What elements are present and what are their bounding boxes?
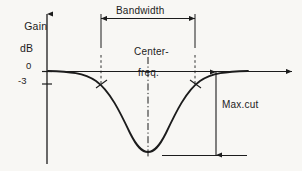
y-tick-label-0: 0 xyxy=(26,61,31,71)
y-axis-title-line2: dB xyxy=(20,43,47,54)
center-frequency-label-line1: Center- xyxy=(134,46,169,57)
y-axis-title-line1: Gain xyxy=(24,20,47,32)
y-tick-label-minus3: -3 xyxy=(18,76,27,86)
bandwidth-label: Bandwidth xyxy=(116,6,165,17)
max-cut-label: Max.cut xyxy=(222,100,258,111)
center-frequency-label-line2: freq. xyxy=(121,68,176,79)
center-frequency-label: Center- freq. xyxy=(121,36,176,89)
y-axis-title: Gain dB xyxy=(18,10,47,65)
